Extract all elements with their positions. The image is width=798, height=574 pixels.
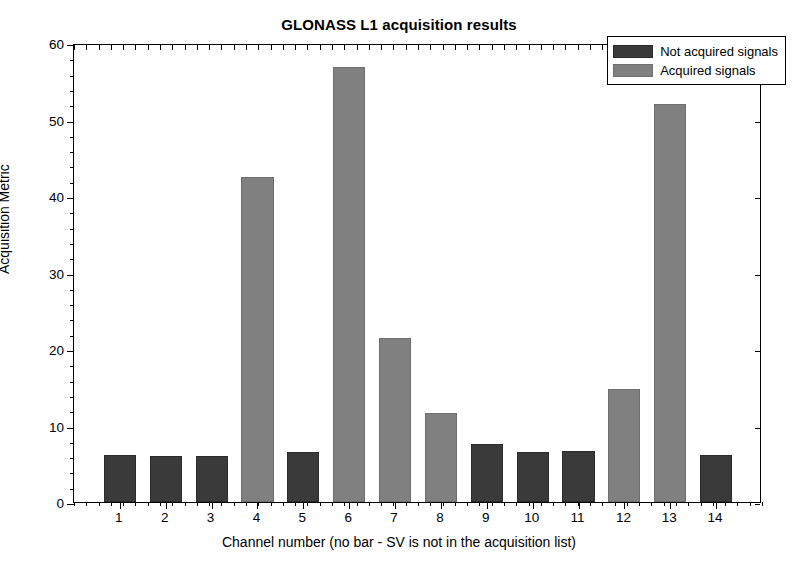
y-minor-tick [70,366,74,367]
x-minor-tick [529,502,530,506]
top-minor-tick [492,45,493,50]
x-minor-tick [74,502,75,506]
x-minor-tick [664,502,665,506]
y-tick-label-10: 10 [0,419,64,434]
y-tick-50 [67,122,74,123]
x-minor-tick [701,502,702,506]
x-minor-tick [148,502,149,506]
x-minor-tick [516,502,517,506]
x-minor-tick [123,502,124,506]
x-minor-tick [651,502,652,506]
chart-title: GLONASS L1 acquisition results [0,16,798,33]
top-minor-tick [111,45,112,50]
y-minor-tick [70,152,74,153]
x-minor-tick [406,502,407,506]
top-minor-tick [320,45,321,50]
x-minor-tick [725,502,726,506]
x-minor-tick [750,502,751,506]
y-minor-tick [70,137,74,138]
y-tick-0 [67,504,74,505]
y-minor-tick [70,305,74,306]
top-minor-tick [197,45,198,50]
x-minor-tick [639,502,640,506]
top-minor-tick [369,45,370,50]
top-minor-tick [148,45,149,50]
y-minor-tick [70,458,74,459]
x-minor-tick [209,502,210,506]
x-minor-tick [578,502,579,506]
y-minor-tick [70,106,74,107]
top-minor-tick [344,45,345,50]
x-minor-tick [221,502,222,506]
bar-channel-12 [608,389,640,502]
y-minor-tick [70,76,74,77]
y-tick-20 [67,351,74,352]
x-tick-label-7: 7 [390,510,398,525]
x-minor-tick [455,502,456,506]
x-tick-13 [670,502,671,509]
x-minor-tick [369,502,370,506]
top-minor-tick [553,45,554,50]
y-minor-tick [70,213,74,214]
top-minor-tick [86,45,87,50]
figure-canvas: GLONASS L1 acquisition results Acquisiti… [0,0,798,574]
x-minor-tick [271,502,272,506]
x-minor-tick [86,502,87,506]
y-minor-tick [70,290,74,291]
top-minor-tick [271,45,272,50]
top-minor-tick [332,45,333,50]
x-minor-tick [160,502,161,506]
y-minor-tick [70,412,74,413]
x-tick-label-10: 10 [524,510,539,525]
x-minor-tick [332,502,333,506]
top-minor-tick [307,45,308,50]
x-minor-tick [197,502,198,506]
legend: Not acquired signalsAcquired signals [607,36,786,85]
top-minor-tick [516,45,517,50]
top-minor-tick [443,45,444,50]
bar-channel-11 [562,451,594,502]
x-minor-tick [565,502,566,506]
bar-channel-7 [379,338,411,502]
top-minor-tick [185,45,186,50]
top-minor-tick [406,45,407,50]
y-minor-tick [70,229,74,230]
top-minor-tick [221,45,222,50]
top-minor-tick [357,45,358,50]
top-minor-tick [381,45,382,50]
top-minor-tick [258,45,259,50]
top-minor-tick [602,45,603,50]
bar-channel-1 [104,455,136,502]
y-tick-right-10 [755,428,760,429]
y-axis-label: Acquisition Metric [0,164,12,274]
top-minor-tick [74,45,75,50]
y-tick-right-20 [755,351,760,352]
y-minor-tick [70,397,74,398]
plot-area [73,44,761,503]
y-tick-40 [67,198,74,199]
top-minor-tick [135,45,136,50]
y-minor-tick [70,320,74,321]
bar-channel-10 [517,452,549,502]
y-minor-tick [70,244,74,245]
x-minor-tick [676,502,677,506]
bars-layer [74,45,760,502]
y-minor-tick [70,489,74,490]
y-minor-tick [70,91,74,92]
y-tick-10 [67,428,74,429]
bar-channel-9 [471,444,503,502]
legend-swatch-acq [613,64,653,77]
x-minor-tick [467,502,468,506]
top-minor-tick [565,45,566,50]
x-minor-tick [246,502,247,506]
x-minor-tick [443,502,444,506]
bar-channel-3 [196,456,228,502]
x-tick-label-14: 14 [708,510,723,525]
x-minor-tick [381,502,382,506]
x-tick-10 [533,502,534,509]
legend-swatch-notacq [613,45,653,58]
x-minor-tick [627,502,628,506]
x-tick-label-1: 1 [115,510,123,525]
y-tick-30 [67,275,74,276]
bar-channel-5 [287,452,319,502]
